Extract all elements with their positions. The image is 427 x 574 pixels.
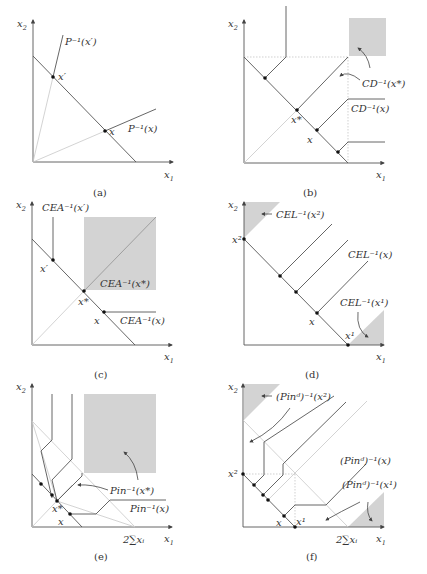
point-x2 — [241, 472, 245, 476]
diagonal-lower — [32, 291, 84, 345]
point-xprime — [51, 75, 55, 79]
label-pin-inv-xstar: Pin⁻¹(x*) — [109, 485, 154, 496]
panel-b: x2 x1 CD⁻¹(x*) CD⁻¹(x) x* x (b) — [228, 6, 405, 198]
caption-d: (d) — [305, 369, 319, 380]
cd-inverse-xstar-region — [349, 18, 386, 56]
panel-c: x2 x1 CEA⁻¹(x′) x′ CEA⁻¹(x*) x* x CEA⁻¹(… — [16, 199, 174, 380]
label-cd-inv-x: CD⁻¹(x) — [351, 103, 389, 114]
point-x — [68, 512, 72, 516]
label-cel-inv-x2: CEL⁻¹(x²) — [276, 209, 324, 220]
figure-canvas: x2 x1 P⁻¹(x′) x′ x P⁻¹(x) (a) x2 x1 — [0, 0, 427, 574]
label-sum-tick: 2∑xᵢ — [335, 534, 357, 545]
point-xstar — [82, 289, 86, 293]
point-x — [315, 311, 319, 315]
axis-label-x1: x1 — [164, 533, 174, 547]
pin-inverse-xstar-line — [57, 473, 82, 501]
point-4 — [336, 150, 340, 154]
axis-label-x1: x1 — [376, 533, 386, 547]
label-p-inv-xprime: P⁻¹(x′) — [64, 36, 97, 47]
label-x: x — [276, 517, 282, 528]
axis-label-x2: x2 — [17, 18, 27, 32]
pin-inverse-line-2 — [52, 394, 72, 501]
label-x2: x² — [228, 468, 238, 479]
point-1 — [278, 274, 282, 278]
arrow-icon — [78, 485, 108, 490]
label-pind-inv-x1: (Pinᵈ)⁻¹(x¹) — [342, 479, 397, 490]
ray-x — [33, 131, 105, 162]
label-xstar: x* — [52, 503, 63, 514]
label-cea-inv-xstar: CEA⁻¹(x*) — [100, 278, 150, 289]
caption-e: (e) — [94, 551, 108, 562]
pind-inverse-x2-region — [244, 384, 280, 420]
point-2 — [294, 290, 298, 294]
label-cel-inv-x1: CEL⁻¹(x¹) — [340, 297, 388, 308]
label-x1: x¹ — [345, 330, 355, 341]
axis-label-x1: x1 — [164, 351, 174, 365]
cel-inverse-line-2 — [296, 240, 348, 292]
label-x: x — [309, 316, 315, 327]
point-x — [315, 128, 319, 132]
label-cea-inv-xprime: CEA⁻¹(x′) — [42, 202, 89, 213]
point-x2 — [242, 237, 246, 241]
label-x1: x¹ — [296, 516, 306, 527]
axis-label-x1: x1 — [376, 351, 386, 365]
label-x: x — [94, 315, 100, 326]
axis-label-x1: x1 — [376, 169, 386, 183]
label-pin-inv-x: Pin⁻¹(x) — [129, 503, 169, 514]
ray-xprime — [33, 77, 53, 162]
point-1 — [252, 483, 256, 487]
axis-label-x2: x2 — [228, 18, 238, 32]
panel-d: x2 x1 CEL⁻¹(x²) x² CEL⁻¹(x) CEL⁻¹(x¹) x … — [228, 199, 392, 380]
cd-inverse-lower — [338, 142, 385, 152]
point-3 — [266, 498, 270, 502]
pin-inverse-xstar-region — [84, 394, 156, 473]
axis-label-x1: x1 — [164, 169, 174, 183]
point-1 — [263, 76, 267, 80]
panel-a: x2 x1 P⁻¹(x′) x′ x P⁻¹(x) (a) — [17, 18, 174, 198]
guide-ray — [32, 421, 57, 501]
point-x1 — [346, 343, 350, 347]
label-cea-inv-x: CEA⁻¹(x) — [120, 315, 165, 326]
axis-label-x2: x2 — [16, 199, 26, 213]
point-2 — [261, 493, 265, 497]
budget-line — [33, 56, 136, 162]
point-xstar — [295, 108, 299, 112]
panel-f: x2 x1 (Pinᵈ)⁻¹(x²) (Pinᵈ)⁻¹(x) (Pinᵈ)⁻¹(… — [228, 381, 397, 562]
axis-label-x2: x2 — [228, 199, 238, 213]
label-x: x — [58, 516, 64, 527]
cel-inverse-line-1 — [280, 224, 332, 276]
axis-label-x2: x2 — [16, 381, 26, 395]
label-xprime: x′ — [40, 263, 49, 274]
axis-label-x2: x2 — [228, 381, 238, 395]
label-x: x — [307, 134, 313, 145]
point-xprime — [51, 258, 55, 262]
arrow-icon — [340, 74, 360, 80]
label-x: x — [109, 126, 115, 137]
arrow-icon — [250, 408, 290, 442]
label-xprime: x′ — [58, 71, 67, 82]
caption-b: (b) — [303, 187, 317, 198]
point-x — [102, 310, 106, 314]
label-x2: x² — [232, 234, 242, 245]
caption-f: (f) — [306, 551, 318, 562]
label-xstar: x* — [78, 296, 89, 307]
label-xstar: x* — [291, 114, 302, 125]
pind-inverse-x1-region — [348, 492, 384, 527]
pind-inverse-line-2 — [263, 402, 346, 495]
diagonal — [244, 110, 297, 163]
point-x — [282, 514, 286, 518]
caption-c: (c) — [94, 369, 108, 380]
point-2 — [50, 493, 54, 497]
label-p-inv-x: P⁻¹(x) — [127, 123, 158, 134]
label-pind-inv-x: (Pinᵈ)⁻¹(x) — [340, 455, 391, 466]
caption-a: (a) — [93, 187, 107, 198]
cd-inverse-xstar-line — [297, 57, 348, 110]
arrow-icon — [326, 502, 360, 520]
cel-inverse-x2-region — [244, 202, 280, 238]
pin-inverse-line-1 — [41, 394, 52, 498]
label-cd-inv-xstar: CD⁻¹(x*) — [362, 78, 405, 89]
panel-e: x2 x1 Pin⁻¹(x*) Pin⁻¹(x) x* x 2∑xᵢ (e) — [16, 381, 174, 562]
point-x — [103, 129, 107, 133]
point-1 — [39, 482, 43, 486]
cd-inverse-upper — [265, 6, 286, 78]
